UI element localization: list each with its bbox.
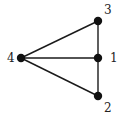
node-4: [17, 54, 25, 62]
node-1: [94, 54, 102, 62]
edge-4-3: [21, 21, 98, 58]
node-2: [94, 92, 102, 100]
graph-diagram: 1234: [0, 0, 117, 120]
edges: [21, 21, 98, 96]
node-label-2: 2: [104, 101, 112, 115]
node-label-1: 1: [110, 51, 117, 65]
edge-4-2: [21, 58, 98, 96]
node-label-3: 3: [104, 3, 112, 17]
node-label-4: 4: [7, 51, 15, 65]
node-3: [94, 17, 102, 25]
